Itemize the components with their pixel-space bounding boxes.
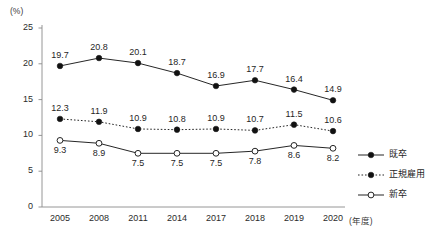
data-point-marker [96,55,102,61]
legend-marker-icon [358,167,384,179]
data-value-label: 7.8 [239,156,271,166]
legend-label: 新卒 [389,187,407,200]
x-tick-label: 2005 [42,213,78,223]
data-point-marker [96,140,102,146]
data-value-label: 7.5 [200,158,232,168]
data-point-marker [252,128,258,134]
data-value-label: 10.7 [239,114,271,124]
data-value-label: 17.7 [239,64,271,74]
data-point-marker [213,150,219,156]
data-point-marker [291,143,297,149]
y-tick-label: 10 [11,129,33,139]
x-tick-label: 2017 [198,213,234,223]
x-tick-label: 2018 [237,213,273,223]
chart-legend: 既卒正規雇用新卒 [358,143,434,203]
y-tick-label: 15 [11,94,33,104]
data-point-marker [213,83,219,89]
data-value-label: 8.2 [317,153,349,163]
x-tick-label: 2014 [159,213,195,223]
data-value-label: 10.8 [161,114,193,124]
data-value-label: 18.7 [161,57,193,67]
data-value-label: 10.9 [200,113,232,123]
x-tick-label: 2011 [120,213,156,223]
data-value-label: 10.6 [317,115,349,125]
legend-item-新卒[interactable]: 新卒 [358,183,434,203]
x-tick-label: 2020 [315,213,351,223]
data-point-marker [330,98,336,104]
legend-marker-icon [358,147,384,159]
data-point-marker [96,119,102,125]
data-point-marker [135,150,141,156]
y-tick-label: 20 [11,58,33,68]
y-tick-label: 0 [11,201,33,211]
data-value-label: 20.8 [83,42,115,52]
data-point-marker [330,145,336,151]
data-value-label: 8.9 [83,148,115,158]
data-point-marker [135,60,141,66]
data-point-marker [57,138,63,144]
x-tick-label: 2008 [81,213,117,223]
data-point-marker [174,127,180,133]
legend-item-既卒[interactable]: 既卒 [358,143,434,163]
legend-label: 正規雇用 [389,167,425,180]
data-value-label: 10.9 [122,113,154,123]
data-value-label: 16.9 [200,70,232,80]
data-value-label: 16.4 [278,74,310,84]
data-point-marker [252,77,258,83]
data-point-marker [57,63,63,69]
data-point-marker [174,150,180,156]
data-value-label: 14.9 [317,84,349,94]
data-point-marker [330,128,336,134]
data-value-label: 9.3 [44,145,76,155]
legend-item-正規雇用[interactable]: 正規雇用 [358,163,434,183]
data-value-label: 7.5 [161,158,193,168]
data-value-label: 8.6 [278,150,310,160]
data-value-label: 7.5 [122,158,154,168]
line-chart: (%) (年度) 0510152025 20052008201120142017… [0,0,434,238]
y-tick-label: 5 [11,165,33,175]
data-point-marker [291,122,297,128]
x-tick-label: 2019 [276,213,312,223]
data-point-marker [135,126,141,132]
data-value-label: 12.3 [44,103,76,113]
data-value-label: 20.1 [122,47,154,57]
y-tick-label: 25 [11,22,33,32]
legend-marker-icon [358,187,384,199]
data-point-marker [291,87,297,93]
data-point-marker [57,116,63,122]
data-value-label: 11.9 [83,106,115,116]
data-point-marker [213,126,219,132]
data-value-label: 11.5 [278,109,310,119]
data-point-marker [174,70,180,76]
legend-label: 既卒 [389,147,407,160]
data-value-label: 19.7 [44,50,76,60]
data-point-marker [252,148,258,154]
